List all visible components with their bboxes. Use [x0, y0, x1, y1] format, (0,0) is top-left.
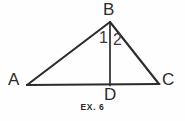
- vertex-label-d: D: [104, 86, 116, 103]
- figure-caption: EX. 6: [0, 103, 185, 112]
- angle-label-1: 1: [99, 30, 108, 46]
- vertex-label-b: B: [103, 1, 114, 18]
- vertex-label-c: C: [162, 71, 174, 88]
- angle-label-2: 2: [113, 32, 122, 48]
- vertex-label-a: A: [8, 71, 19, 88]
- geometry-figure: B A C D 1 2 EX. 6: [0, 0, 185, 121]
- segment-ac: [27, 84, 160, 85]
- segment-ab: [27, 22, 110, 85]
